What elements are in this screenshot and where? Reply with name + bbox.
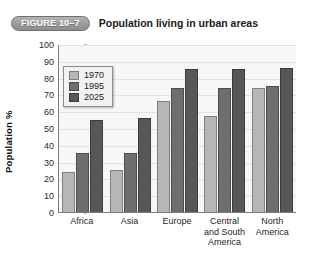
legend-item: 2025 (69, 93, 104, 102)
bar (76, 153, 89, 212)
bar (185, 69, 198, 212)
bar-group (201, 45, 248, 212)
y-axis-tick-label: 40 (26, 141, 54, 150)
bar (280, 68, 293, 212)
y-axis: Population % 0102030405060708090100 (26, 45, 54, 213)
figure-container: FIGURE 10–7 Population living in urban a… (0, 0, 318, 259)
legend-swatch (69, 93, 79, 102)
y-axis-tick-label: 70 (26, 91, 54, 100)
y-axis-title: Population % (3, 110, 14, 173)
bar (232, 69, 245, 212)
legend-label: 1970 (84, 71, 104, 80)
x-axis-tick-label: Africa (58, 216, 106, 248)
bar (204, 116, 217, 212)
legend-label: 1995 (84, 82, 104, 91)
y-axis-tick-label: 80 (26, 74, 54, 83)
bar-group (106, 45, 153, 212)
bar (90, 120, 103, 212)
y-axis-tick-label: 10 (26, 192, 54, 201)
bar (110, 170, 123, 212)
chart-legend: 197019952025 (63, 66, 113, 107)
y-axis-tick-label: 100 (26, 41, 54, 50)
y-axis-tick-label: 20 (26, 175, 54, 184)
legend-item: 1995 (69, 82, 104, 91)
bar (266, 86, 279, 212)
figure-title: Population living in urban areas (99, 17, 258, 29)
bar (138, 118, 151, 212)
legend-swatch (69, 71, 79, 80)
x-axis-tick-label: Central and South America (201, 216, 249, 248)
bar (157, 101, 170, 212)
x-axis-tick-label: Europe (153, 216, 201, 248)
bar-group (154, 45, 201, 212)
y-axis-tick-label: 0 (26, 209, 54, 218)
x-axis-tick-label: North America (248, 216, 296, 248)
y-axis-tick-label: 30 (26, 158, 54, 167)
bar-group (249, 45, 296, 212)
bar (218, 88, 231, 212)
figure-header: FIGURE 10–7 Population living in urban a… (0, 13, 318, 33)
y-axis-tick-label: 50 (26, 125, 54, 134)
bar (252, 88, 265, 212)
bar (124, 153, 137, 212)
x-axis-labels: AfricaAsiaEuropeCentral and South Americ… (58, 216, 296, 248)
bar (62, 172, 75, 212)
legend-label: 2025 (84, 93, 104, 102)
x-axis-tick-label: Asia (106, 216, 154, 248)
legend-item: 1970 (69, 71, 104, 80)
y-axis-tick-label: 60 (26, 108, 54, 117)
y-axis-tick-label: 90 (26, 57, 54, 66)
bar (171, 88, 184, 212)
figure-number-badge: FIGURE 10–7 (11, 16, 90, 31)
legend-swatch (69, 82, 79, 91)
